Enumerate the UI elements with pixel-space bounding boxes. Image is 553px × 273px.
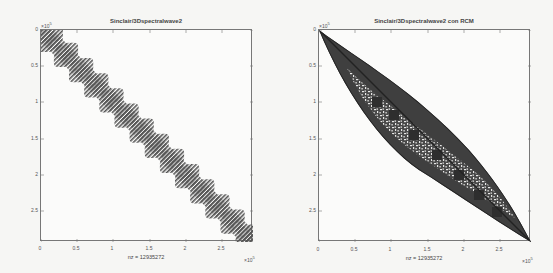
x-tick-label: 1.5 <box>146 245 153 251</box>
y-tick-label: 1.5 <box>309 135 316 141</box>
x-tick-label: 0 <box>39 245 42 251</box>
x-tick-label: 1 <box>111 245 114 251</box>
y-tick-label: 1 <box>35 98 38 104</box>
y-tick-label: 0 <box>35 26 38 32</box>
y-tick-label: 2 <box>313 171 316 177</box>
y-tick-label: 2.5 <box>309 207 316 213</box>
plot-axes <box>318 29 530 241</box>
x-tick-label: 0.5 <box>351 246 358 252</box>
sparsity-pattern <box>41 30 253 242</box>
x-tick-label: 0 <box>317 246 320 252</box>
y-tick-label: 2.5 <box>31 207 38 213</box>
x-tick-label: 2 <box>462 246 465 252</box>
x-tick-label: 0.5 <box>73 245 80 251</box>
y-tick-label: 1 <box>313 98 316 104</box>
sparsity-pattern <box>319 30 531 242</box>
y-tick-label: 1.5 <box>31 135 38 141</box>
x-tick-label: 1 <box>389 246 392 252</box>
x-tick-label: 2.5 <box>496 246 503 252</box>
x-axis-label: nz = 12935272 <box>128 254 165 260</box>
x-exponent-label: ×105 <box>522 256 533 264</box>
spy-plot-original: Sinclair/3Dspectralwave2 ×105 0 0.5 1 1.… <box>0 0 276 273</box>
spy-plot-rcm: Sinclair/3Dspectralwave2 con RCM ×105 <box>277 0 553 273</box>
x-tick-label: 2.5 <box>218 245 225 251</box>
y-tick-label: 0.5 <box>31 62 38 68</box>
plot-title: Sinclair/3Dspectralwave2 con RCM <box>374 18 474 24</box>
x-exponent-label: ×105 <box>244 255 255 263</box>
plot-axes <box>40 29 252 241</box>
y-exponent-label: ×105 <box>41 21 52 29</box>
plot-title: Sinclair/3Dspectralwave2 <box>110 18 182 24</box>
y-tick-label: 2 <box>35 171 38 177</box>
x-axis-label: nz = 12935272 <box>406 255 443 261</box>
x-tick-label: 2 <box>184 245 187 251</box>
y-exponent-label: ×105 <box>319 21 330 29</box>
y-tick-label: 0 <box>313 26 316 32</box>
y-tick-label: 0.5 <box>309 62 316 68</box>
x-tick-label: 1.5 <box>424 246 431 252</box>
